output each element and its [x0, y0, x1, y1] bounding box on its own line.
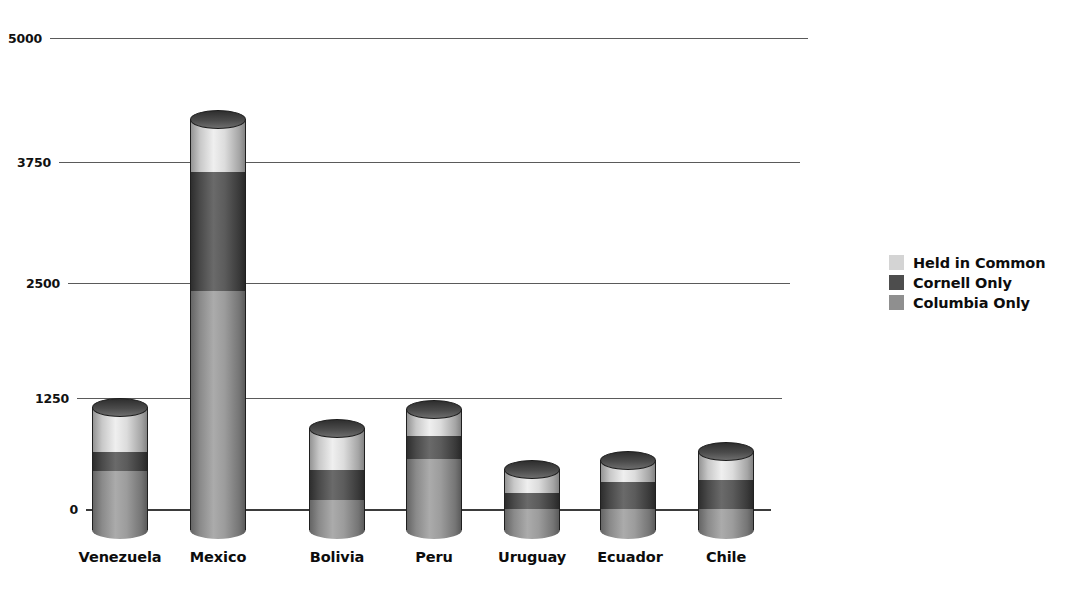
- legend-swatch-icon-cornell-only: [889, 275, 904, 290]
- legend-item-held-in-common: Held in Common: [889, 253, 1045, 272]
- segment-cornell-only: [600, 480, 656, 509]
- gridline-5000: [50, 38, 808, 39]
- segment-columbia-only: [92, 471, 148, 530]
- legend-item-columbia-only: Columbia Only: [889, 293, 1045, 312]
- legend-swatch-icon-columbia-only: [889, 295, 904, 310]
- gridline-2500: [68, 283, 790, 284]
- bar-venezuela: [92, 398, 148, 539]
- xlabel-uruguay: Uruguay: [498, 549, 566, 565]
- xlabel-mexico: Mexico: [190, 549, 247, 565]
- xlabel-peru: Peru: [415, 549, 453, 565]
- cylinder-top-cap: [190, 110, 246, 129]
- bar-uruguay: [504, 460, 560, 539]
- segment-columbia-only: [309, 500, 365, 530]
- ytick-label-1250: 1250: [27, 391, 69, 406]
- legend-label-held-in-common: Held in Common: [913, 255, 1045, 271]
- bar-ecuador: [600, 451, 656, 539]
- segment-cornell-only: [406, 434, 462, 459]
- xlabel-bolivia: Bolivia: [310, 549, 364, 565]
- gridline-3750: [59, 162, 800, 163]
- legend-item-cornell-only: Cornell Only: [889, 273, 1045, 292]
- cylinder-top-cap: [92, 398, 148, 417]
- ytick-label-5000: 5000: [0, 31, 42, 46]
- xlabel-venezuela: Venezuela: [79, 549, 162, 565]
- ytick-label-2500: 2500: [18, 276, 60, 291]
- xlabel-chile: Chile: [706, 549, 746, 565]
- legend-swatch-icon-held-in-common: [889, 255, 904, 270]
- xlabel-ecuador: Ecuador: [597, 549, 662, 565]
- cylinder-top-cap: [600, 451, 656, 470]
- bar-mexico: [190, 110, 246, 539]
- segment-cornell-only: [504, 491, 560, 509]
- chart-legend: Held in Common Cornell Only Columbia Onl…: [889, 253, 1045, 313]
- segment-columbia-only: [600, 509, 656, 530]
- cylinder-top-cap: [406, 400, 462, 419]
- segment-cornell-only: [698, 478, 754, 509]
- cylinder-top-cap: [309, 419, 365, 438]
- ytick-label-3750: 3750: [9, 155, 51, 170]
- legend-label-cornell-only: Cornell Only: [913, 275, 1012, 291]
- chart-canvas: 5000 3750 2500 1250 0: [0, 0, 1078, 605]
- segment-cornell-only: [190, 163, 246, 291]
- segment-cornell-only: [309, 469, 365, 500]
- segment-columbia-only: [698, 509, 754, 530]
- segment-columbia-only: [504, 509, 560, 530]
- segment-columbia-only: [190, 291, 246, 530]
- cylinder-top-cap: [504, 460, 560, 479]
- cylinder-top-cap: [698, 442, 754, 461]
- gridline-1250: [77, 398, 782, 399]
- bar-bolivia: [309, 419, 365, 539]
- bar-chile: [698, 442, 754, 539]
- ytick-label-0: 0: [36, 502, 78, 517]
- legend-label-columbia-only: Columbia Only: [913, 295, 1030, 311]
- segment-columbia-only: [406, 459, 462, 530]
- bar-peru: [406, 400, 462, 539]
